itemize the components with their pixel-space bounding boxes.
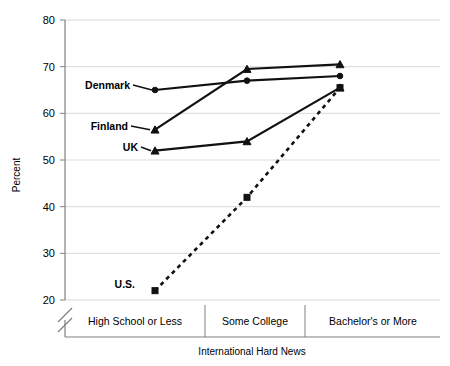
chart-background bbox=[0, 0, 450, 366]
datapoint-denmark-0 bbox=[152, 87, 158, 93]
x-axis-title: International Hard News bbox=[198, 346, 305, 357]
chart-container: 20304050607080 Percent High School or Le… bbox=[0, 0, 450, 366]
category-label-some-college: Some College bbox=[222, 315, 288, 327]
y-tick-label-40: 40 bbox=[43, 201, 55, 213]
y-tick-label-80: 80 bbox=[43, 14, 55, 26]
series-label-finland: Finland bbox=[91, 120, 128, 132]
category-label-bachelors-or-more: Bachelor's or More bbox=[329, 315, 417, 327]
datapoint-denmark-1 bbox=[244, 78, 250, 84]
y-tick-label-20: 20 bbox=[43, 294, 55, 306]
datapoint-us-2 bbox=[337, 85, 343, 91]
y-axis-title: Percent bbox=[11, 158, 22, 193]
y-tick-label-60: 60 bbox=[43, 107, 55, 119]
datapoint-denmark-2 bbox=[337, 73, 343, 79]
line-chart: 20304050607080 Percent High School or Le… bbox=[0, 0, 450, 366]
y-tick-label-30: 30 bbox=[43, 247, 55, 259]
category-label-high-school-or-less: High School or Less bbox=[88, 315, 182, 327]
series-label-us: U.S. bbox=[115, 278, 136, 290]
y-tick-label-70: 70 bbox=[43, 61, 55, 73]
datapoint-us-1 bbox=[244, 194, 250, 200]
datapoint-us-0 bbox=[152, 288, 158, 294]
series-label-uk: UK bbox=[123, 141, 139, 153]
y-tick-label-50: 50 bbox=[43, 154, 55, 166]
series-label-denmark: Denmark bbox=[85, 79, 130, 91]
